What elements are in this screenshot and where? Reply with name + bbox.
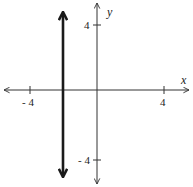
x-axis-label: x: [180, 73, 187, 87]
y-tick-label-4: 4: [84, 19, 90, 31]
y-axis-label: y: [106, 5, 113, 19]
y-tick-label-neg4: - 4: [78, 154, 90, 166]
coordinate-plane: - 4 4 4 - 4 x y: [0, 0, 193, 187]
x-tick-label-4: 4: [160, 96, 166, 108]
x-tick-label-neg4: - 4: [22, 96, 34, 108]
